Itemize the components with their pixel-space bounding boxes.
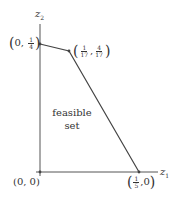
region-label-line2: set (52, 119, 92, 132)
point-origin (39, 171, 42, 174)
region-label-line1: feasible (52, 106, 92, 119)
y-axis-subscript: 2 (40, 14, 44, 21)
x-axis-subscript: 1 (165, 172, 169, 179)
label-top-point: (0, 14) (9, 36, 41, 50)
label-right-point: (15,0) (127, 175, 155, 189)
feasible-set-label: feasible set (52, 106, 92, 132)
paren-close: ) (105, 43, 110, 59)
paren-close: ) (35, 35, 40, 51)
coord-x: 0, (14, 37, 27, 48)
label-vertex-point: (117,417) (73, 44, 110, 58)
paren-open: ( (73, 43, 78, 59)
denominator: 5 (133, 183, 139, 189)
paren-close: ) (150, 174, 155, 190)
y-axis-label: z2 (35, 8, 44, 21)
fraction-y: 417 (94, 45, 104, 58)
denominator: 17 (94, 52, 104, 58)
fraction-x: 117 (79, 45, 89, 58)
coord-y: ,0 (140, 176, 150, 187)
point-vertex (68, 50, 71, 53)
fraction: 14 (28, 37, 34, 50)
denominator: 4 (28, 44, 34, 50)
point-right (138, 171, 141, 174)
paren-open: ( (127, 174, 132, 190)
x-axis-label: z1 (160, 166, 169, 179)
separator: , (90, 45, 93, 56)
denominator: 17 (79, 52, 89, 58)
label-origin: (0, 0) (13, 177, 40, 187)
fraction: 15 (133, 176, 139, 189)
